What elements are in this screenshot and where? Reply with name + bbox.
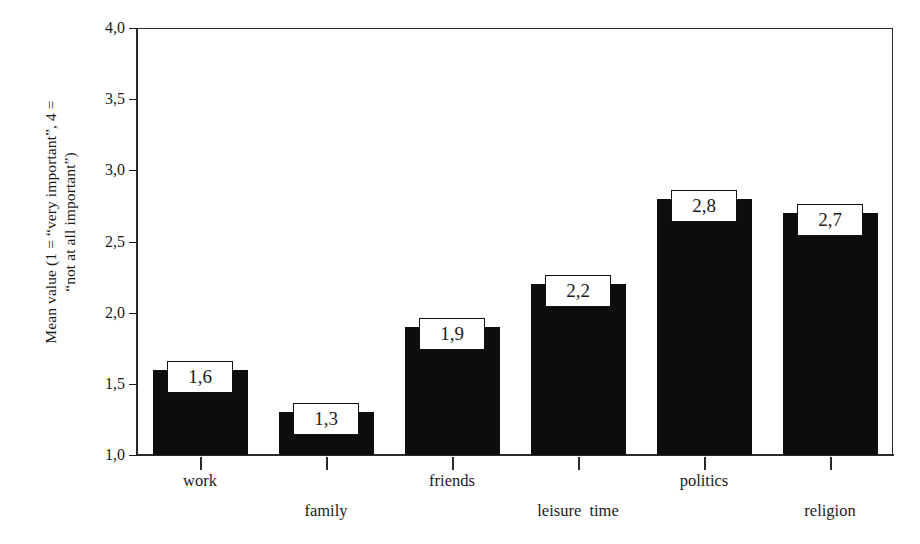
x-tick-mark [326,457,328,470]
y-tick-mark [129,313,138,314]
bar [531,284,626,455]
y-tick-label: 1,5 [81,376,125,392]
bar-value-label: 2,2 [545,275,611,307]
y-tick-label: 2,0 [81,305,125,321]
y-tick-mark [129,242,138,243]
bar-value-label: 1,3 [293,403,359,435]
x-tick-mark [578,457,580,470]
x-tick-mark [200,457,202,470]
y-axis-label: Mean value (1 = “very important”, 4 = “n… [38,12,82,432]
y-axis-label-line-2: “not at all important”) [60,152,79,292]
y-tick-label: 4,0 [81,20,125,36]
y-tick-mark [129,28,138,29]
y-tick-mark [129,455,138,456]
x-tick-label: friends [357,472,547,489]
x-tick-mark [704,457,706,470]
y-tick-mark [129,384,138,385]
y-tick-mark [129,99,138,100]
x-tick-label: work [105,472,295,489]
bar-value-label: 2,8 [671,190,737,222]
x-tick-label: politics [609,472,799,489]
x-tick-label: leisure time [483,502,673,519]
x-tick-label: family [231,502,421,519]
y-tick-label: 1,0 [81,447,125,463]
plot-area [137,28,893,455]
bar-value-label: 1,9 [419,318,485,350]
cropped-title-ghost [150,0,770,6]
x-tick-mark [452,457,454,470]
bar-chart-figure: Mean value (1 = “very important”, 4 = “n… [0,0,920,544]
y-tick-label: 3,0 [81,162,125,178]
y-tick-mark [129,170,138,171]
y-tick-label: 2,5 [81,234,125,250]
bar [657,199,752,455]
y-tick-label: 3,5 [81,91,125,107]
x-tick-label: religion [735,502,920,519]
bar-value-label: 1,6 [167,361,233,393]
bar [783,213,878,455]
y-axis-label-line-1: Mean value (1 = “very important”, 4 = [41,100,60,343]
x-tick-mark [830,457,832,470]
bar-value-label: 2,7 [797,204,863,236]
